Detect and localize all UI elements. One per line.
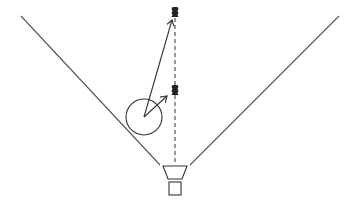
cone-left-edge: [21, 16, 160, 165]
diagram-canvas: [0, 0, 356, 205]
arrow-to-far-target: [144, 20, 172, 117]
diagram-svg: [0, 0, 356, 205]
sensor-box: [169, 182, 181, 195]
sensor-icon: [163, 166, 187, 195]
far-target-icon: [172, 7, 179, 17]
sensor-horn: [163, 166, 187, 179]
near-target-icon: [172, 85, 179, 95]
cone-right-edge: [190, 16, 339, 165]
